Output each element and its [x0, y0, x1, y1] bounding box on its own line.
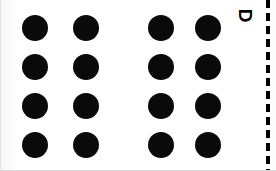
- dot-r3-c2: [73, 93, 99, 119]
- dot-r4-c4: [195, 132, 221, 158]
- dot-r3-c4: [195, 93, 221, 119]
- dot-r4-c1: [22, 132, 48, 158]
- dot-grid-stimulus: [1, 0, 276, 170]
- dashed-divider-line: [266, 0, 270, 171]
- dot-r4-c3: [148, 132, 174, 158]
- dot-r2-c1: [22, 54, 48, 80]
- dot-r3-c1: [22, 93, 48, 119]
- dot-r4-c2: [73, 132, 99, 158]
- dot-r3-c3: [148, 93, 174, 119]
- dot-r1-c3: [148, 15, 174, 41]
- figure-panel: D: [0, 0, 276, 171]
- dot-r1-c4: [195, 15, 221, 41]
- dot-r1-c2: [73, 15, 99, 41]
- panel-label-d: D: [236, 9, 255, 23]
- dot-r2-c2: [73, 54, 99, 80]
- dot-r2-c4: [195, 54, 221, 80]
- dot-r1-c1: [22, 15, 48, 41]
- dot-r2-c3: [148, 54, 174, 80]
